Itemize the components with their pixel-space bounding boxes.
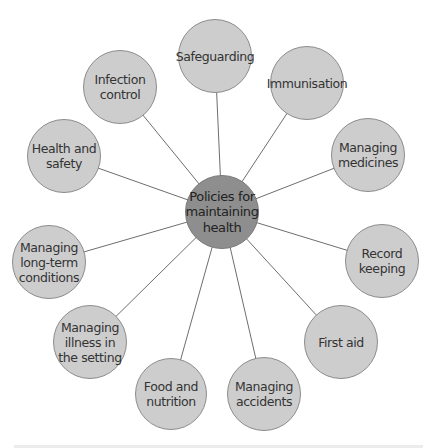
node-label: Record keeping [359, 246, 406, 276]
node-label: First aid [318, 335, 364, 350]
node-food-and-nutrition: Food and nutrition [135, 358, 207, 430]
node-label: Health and safety [32, 141, 97, 171]
node-label: Food and nutrition [144, 379, 198, 409]
node-label: Safeguarding [176, 49, 255, 64]
node-health-and-safety: Health and safety [27, 119, 101, 193]
node-managing-medicines: Managing medicines [331, 118, 405, 192]
node-record-keeping: Record keeping [345, 224, 419, 298]
node-label: Managing illness in the setting [58, 320, 121, 365]
node-label: Immunisation [267, 76, 348, 91]
hub-node: Policies for maintaining health [185, 175, 259, 249]
node-safeguarding: Safeguarding [178, 19, 252, 93]
node-first-aid: First aid [304, 305, 378, 379]
node-infection-control: Infection control [83, 50, 157, 124]
node-managing-illness: Managing illness in the setting [53, 305, 127, 379]
node-label: Infection control [95, 72, 146, 102]
node-managing-accidents: Managing accidents [227, 357, 301, 431]
node-managing-long-term-conditions: Managing long-term conditions [12, 225, 86, 299]
spider-diagram: Safeguarding Immunisation Managing medic… [0, 0, 428, 448]
node-label: Managing long-term conditions [19, 240, 79, 285]
node-immunisation: Immunisation [270, 46, 344, 120]
node-label: Managing accidents [235, 379, 293, 409]
node-label: Managing medicines [338, 140, 398, 170]
hub-label: Policies for maintaining health [185, 189, 258, 236]
